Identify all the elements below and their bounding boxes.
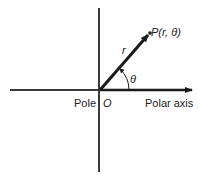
pole-label: Pole: [74, 98, 96, 109]
angle-arc: [120, 69, 129, 90]
origin-label: O: [103, 98, 112, 109]
polar-axis-label: Polar axis: [145, 98, 193, 109]
polar-coordinate-diagram: P(r, θ) r θ Pole O Polar axis: [0, 0, 204, 182]
angle-label: θ: [130, 74, 136, 85]
point-label: P(r, θ): [151, 27, 181, 38]
radius-label: r: [122, 45, 126, 56]
